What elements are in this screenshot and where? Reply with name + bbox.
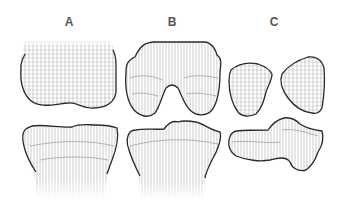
panel-c-top-right-bone [281, 57, 325, 113]
panel-c-bottom-bone [229, 118, 323, 171]
figure: A B C [0, 0, 339, 200]
panel-b-bottom-bone [124, 121, 226, 200]
panel-b-top-bone [126, 42, 221, 116]
panel-c-top-left-bone [229, 63, 272, 116]
bone-illustration [0, 0, 339, 200]
panel-a-bottom-bone [20, 125, 122, 201]
panel-a-top-bone [18, 38, 120, 108]
